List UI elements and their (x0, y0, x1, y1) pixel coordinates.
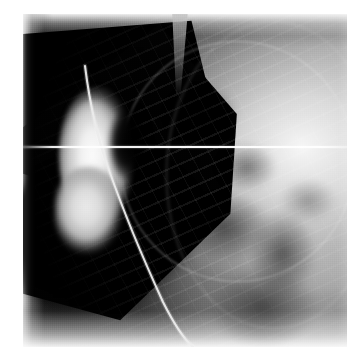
horizontal-scan-line (23, 146, 347, 148)
radiograph-image[interactable] (23, 14, 347, 347)
radiograph-viewer[interactable] (0, 0, 361, 363)
film-grain (23, 14, 347, 347)
